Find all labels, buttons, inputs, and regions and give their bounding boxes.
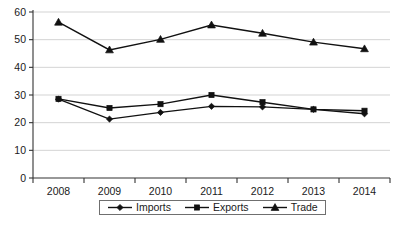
marker-square xyxy=(56,96,61,101)
y-gridlines: 0102030405060 xyxy=(14,6,390,184)
legend-item-trade[interactable]: Trade xyxy=(262,202,318,213)
marker-square xyxy=(194,204,199,209)
marker-square xyxy=(209,92,214,97)
x-tick-label: 2011 xyxy=(200,185,223,197)
x-tick-label: 2009 xyxy=(98,185,122,197)
marker-square xyxy=(260,100,265,105)
legend-label: Exports xyxy=(213,202,249,213)
x-tick-label: 2008 xyxy=(47,185,71,197)
marker-square xyxy=(362,108,367,113)
marker-square xyxy=(311,107,316,112)
x-tick-label: 2010 xyxy=(149,185,173,197)
marker-diamond xyxy=(208,103,214,109)
figure-caption xyxy=(4,228,304,237)
x-axis-labels: 2008200920102011201220132014 xyxy=(33,178,390,197)
legend-swatch-diamond-icon xyxy=(107,202,133,213)
chart-legend: ImportsExportsTrade xyxy=(99,200,326,215)
marker-square xyxy=(158,102,163,107)
series-trade xyxy=(55,18,369,52)
marker-diamond xyxy=(117,204,123,210)
y-tick-label: 30 xyxy=(14,89,26,101)
y-tick-label: 50 xyxy=(14,33,26,45)
chart-plot-area: 0102030405060200820092010201120122013201… xyxy=(0,0,397,198)
legend-item-exports[interactable]: Exports xyxy=(184,202,249,213)
legend-swatch-square-icon xyxy=(184,202,210,213)
x-tick-label: 2012 xyxy=(251,185,275,197)
y-tick-label: 20 xyxy=(14,116,26,128)
legend-label: Imports xyxy=(136,202,171,213)
figure: 0102030405060200820092010201120122013201… xyxy=(0,0,397,237)
x-tick-label: 2014 xyxy=(353,185,377,197)
line-chart: 0102030405060200820092010201120122013201… xyxy=(0,0,397,198)
marker-triangle xyxy=(55,18,63,25)
x-tick-label: 2013 xyxy=(302,185,326,197)
marker-diamond xyxy=(157,109,163,115)
y-tick-label: 0 xyxy=(20,172,26,184)
y-tick-label: 60 xyxy=(14,6,26,18)
marker-triangle xyxy=(208,21,216,28)
legend-label: Trade xyxy=(291,202,318,213)
y-tick-label: 40 xyxy=(14,61,26,73)
legend-item-imports[interactable]: Imports xyxy=(107,202,171,213)
marker-square xyxy=(107,105,112,110)
marker-diamond xyxy=(106,116,112,122)
y-tick-label: 10 xyxy=(14,144,26,156)
legend-swatch-triangle-icon xyxy=(262,202,288,213)
